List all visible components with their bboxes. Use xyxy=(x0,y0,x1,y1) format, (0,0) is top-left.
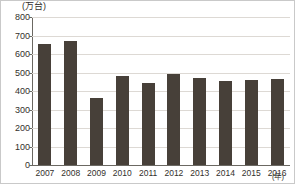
x-tick-label: 2013 xyxy=(187,168,213,178)
y-tick-label: 0 xyxy=(2,161,30,170)
y-tick-label: 800 xyxy=(2,13,30,22)
y-axis-labels: 0100200300400500600700800 xyxy=(0,17,30,165)
bar xyxy=(116,76,129,165)
x-tick-label: 2008 xyxy=(58,168,84,178)
y-tick-label: 400 xyxy=(2,87,30,96)
x-axis-unit-label: (年) xyxy=(272,170,284,181)
bar xyxy=(142,83,155,165)
x-tick-label: 2015 xyxy=(238,168,264,178)
y-tick-label: 600 xyxy=(2,50,30,59)
x-tick-label: 2010 xyxy=(109,168,135,178)
bar xyxy=(64,41,77,165)
plot-area xyxy=(32,17,290,165)
y-axis-unit-label: (万台) xyxy=(22,0,46,12)
y-tick-label: 700 xyxy=(2,32,30,41)
bar xyxy=(271,79,284,165)
gridline xyxy=(32,165,290,166)
bar xyxy=(219,81,232,165)
bar xyxy=(90,98,103,165)
x-tick-label: 2012 xyxy=(161,168,187,178)
x-tick-label: 2007 xyxy=(32,168,58,178)
bar xyxy=(38,44,51,165)
bar xyxy=(193,78,206,165)
y-tick-label: 500 xyxy=(2,69,30,78)
bar xyxy=(167,74,180,165)
bar-chart: (万台) 0100200300400500600700800 200720082… xyxy=(0,0,295,184)
y-tick-label: 100 xyxy=(2,143,30,152)
x-tick-label: 2009 xyxy=(84,168,110,178)
bar xyxy=(245,80,258,165)
x-tick-label: 2014 xyxy=(213,168,239,178)
gridline xyxy=(32,36,290,37)
gridline xyxy=(32,17,290,18)
x-axis-labels: 2007200820092010201120122013201420152016 xyxy=(32,168,290,182)
y-tick-label: 200 xyxy=(2,124,30,133)
y-tick-label: 300 xyxy=(2,106,30,115)
x-tick-label: 2011 xyxy=(135,168,161,178)
